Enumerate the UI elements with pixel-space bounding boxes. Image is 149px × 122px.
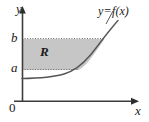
- x-axis-label: x: [135, 104, 141, 117]
- y-tick-label-a: a: [11, 61, 18, 74]
- region-label-R: R: [40, 45, 49, 58]
- function-label: y=f(x): [98, 5, 129, 17]
- y-axis-label: y: [16, 2, 22, 15]
- origin-label: 0: [9, 101, 16, 114]
- x-axis: [14, 98, 139, 105]
- figure-canvas: [0, 0, 149, 122]
- shaded-region-R: [22, 39, 105, 70]
- region-figure: y b a R 0 x y=f(x): [0, 0, 149, 122]
- y-tick-label-b: b: [11, 31, 18, 44]
- function-label-equals: =: [103, 4, 112, 18]
- function-label-expr: f(x): [112, 4, 129, 18]
